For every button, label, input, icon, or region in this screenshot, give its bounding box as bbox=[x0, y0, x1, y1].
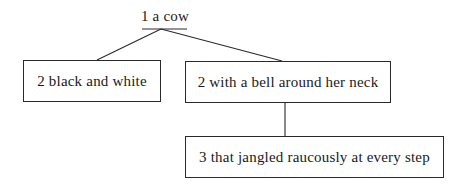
root-node-label: 1 a cow bbox=[140, 7, 190, 25]
node-label: 2 with a bell around her neck bbox=[198, 74, 379, 91]
node-label: 2 black and white bbox=[37, 73, 147, 90]
node-with-a-bell: 2 with a bell around her neck bbox=[185, 61, 391, 103]
tree-diagram: 1 a cow 2 black and white 2 with a bell … bbox=[0, 0, 456, 187]
node-that-jangled: 3 that jangled raucously at every step bbox=[185, 136, 444, 178]
node-label: 3 that jangled raucously at every step bbox=[199, 149, 430, 166]
edge-root-to-bell bbox=[161, 29, 282, 61]
node-black-and-white: 2 black and white bbox=[23, 60, 161, 102]
edge-root-to-black-white bbox=[97, 29, 161, 60]
